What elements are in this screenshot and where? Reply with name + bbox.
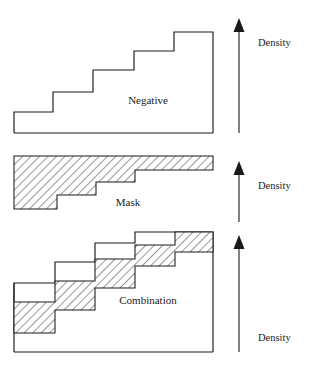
density-arrow-combination — [234, 235, 245, 352]
density-arrow-negative — [234, 18, 245, 133]
density-arrow-head-combination — [234, 235, 245, 249]
mask-hatched-band — [14, 156, 213, 209]
panel-mask: Mask Density — [14, 156, 291, 222]
density-arrow-head-negative — [234, 18, 245, 32]
panel-negative: Negative Density — [14, 18, 291, 133]
panel-combination: Combination Density — [14, 232, 291, 352]
panel-label-mask: Mask — [116, 196, 141, 208]
figure-canvas: Negative Density Mask Density Combinatio… — [0, 0, 318, 377]
density-staircase-figure: Negative Density Mask Density Combinatio… — [0, 0, 318, 377]
density-label-negative: Density — [258, 37, 291, 48]
density-label-mask: Density — [258, 180, 291, 191]
negative-staircase-outline — [14, 32, 213, 133]
panel-label-combination: Combination — [119, 294, 177, 306]
density-arrow-head-mask — [234, 161, 245, 175]
density-arrow-mask — [234, 161, 245, 222]
density-label-combination: Density — [258, 332, 291, 343]
panel-label-negative: Negative — [128, 94, 168, 106]
